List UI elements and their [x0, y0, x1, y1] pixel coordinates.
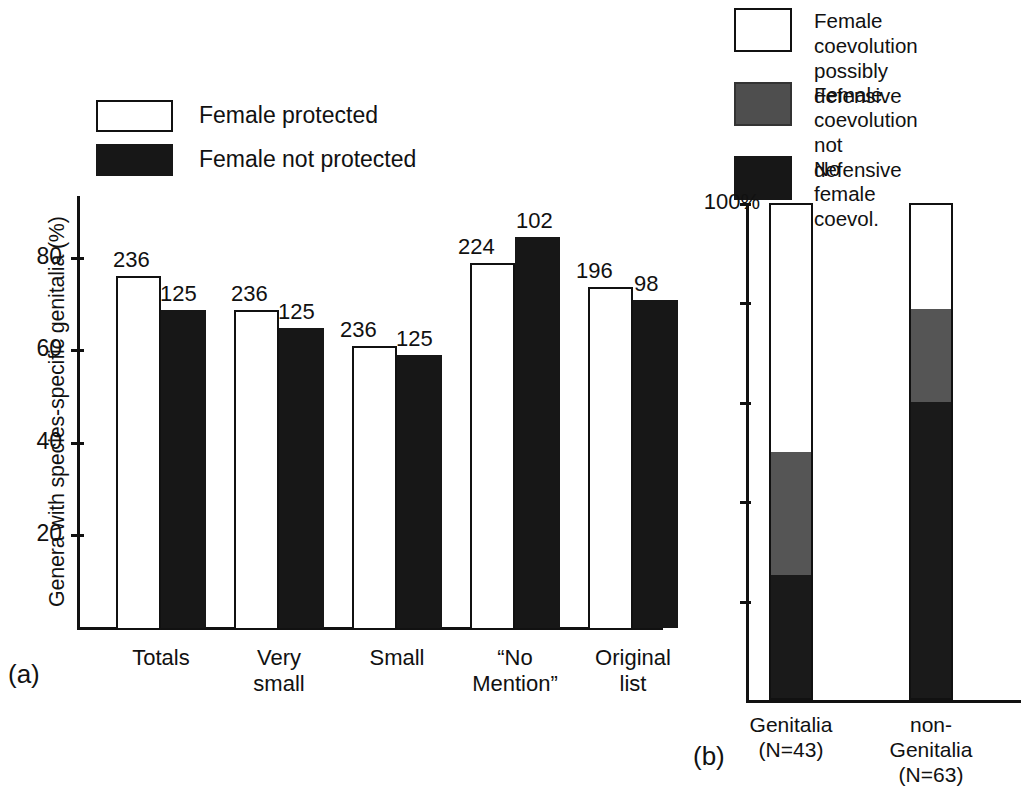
panel-b-tag: (b)	[693, 742, 725, 770]
panel-b-ytick-20	[740, 601, 751, 604]
panel-a-ytick-label-80: 80	[18, 244, 62, 269]
xcat-line2: Mention”	[455, 671, 575, 697]
bar-not-protected-totals	[161, 310, 206, 628]
panel-b-axis-top-label: 100%	[698, 190, 760, 214]
panel-a: Genera with species-specific genitalia (…	[0, 0, 690, 784]
xcat-line2: (N=43)	[731, 737, 851, 762]
legend-label: No female coevol.	[814, 156, 879, 231]
panel-a-ytick-80	[71, 257, 84, 260]
xcat-original-list: Original list	[573, 645, 693, 697]
xcat-line2: small	[219, 671, 339, 697]
panel-b-ytick-80	[740, 302, 751, 305]
bar-not-protected-very-small	[279, 328, 324, 628]
segment-possibly-defensive	[771, 205, 811, 452]
bar-value-protected-small: 236	[340, 318, 377, 342]
legend-swatch-white-icon	[96, 100, 173, 132]
xcat-line1: “No	[455, 645, 575, 671]
legend-swatch-black-icon	[96, 144, 173, 176]
panel-b-ytick-60	[740, 402, 751, 405]
bar-value-not-protected-totals: 125	[160, 282, 197, 306]
legend-label: Female protected	[199, 102, 378, 129]
bar-value-protected-no-mention: 224	[458, 235, 495, 259]
bar-protected-very-small	[234, 310, 279, 628]
segment-no-female-coevol	[771, 575, 811, 698]
panel-a-ytick-20	[71, 534, 84, 537]
panel-b: Female coevolution possibly defensive Fe…	[690, 0, 1021, 784]
bar-protected-small	[352, 346, 397, 628]
legend-swatch-white-icon	[734, 8, 792, 52]
panel-a-y-axis-line	[77, 196, 80, 630]
panel-b-y-axis-line	[746, 203, 749, 703]
legend-swatch-gray-icon	[734, 82, 792, 126]
xcat-line1: Small	[337, 645, 457, 671]
bar-value-protected-original-list: 196	[576, 259, 613, 283]
xcat-line2: list	[573, 671, 693, 697]
xcat-line1: non-	[871, 712, 991, 737]
panel-a-ytick-label-60: 60	[18, 336, 62, 361]
panel-a-ytick-label-40: 40	[18, 429, 62, 454]
panel-b-ytick-40	[740, 501, 751, 504]
segment-no-female-coevol	[911, 402, 951, 698]
segment-not-defensive	[911, 309, 951, 403]
panel-a-ytick-60	[71, 349, 84, 352]
bar-value-protected-very-small: 236	[231, 282, 268, 306]
panel-b-ytick-100	[740, 203, 751, 206]
stacked-bar-non-genitalia	[909, 203, 953, 700]
bar-protected-totals	[116, 276, 161, 628]
xcat-totals: Totals	[101, 645, 221, 671]
bar-not-protected-small	[397, 355, 442, 628]
xcat-non-genitalia: non- Genitalia (N=63)	[871, 712, 991, 788]
xcat-small: Small	[337, 645, 457, 671]
panel-a-ytick-40	[71, 442, 84, 445]
bar-value-not-protected-no-mention: 102	[516, 209, 553, 233]
legend-label: Female not protected	[199, 146, 416, 173]
xcat-genitalia: Genitalia (N=43)	[731, 712, 851, 762]
xcat-line1: Genitalia	[731, 712, 851, 737]
bar-not-protected-original-list	[633, 300, 678, 628]
bar-value-not-protected-original-list: 98	[634, 272, 658, 296]
xcat-line1: Very	[219, 645, 339, 671]
xcat-very-small: Very small	[219, 645, 339, 697]
xcat-no-mention: “No Mention”	[455, 645, 575, 697]
bar-value-not-protected-very-small: 125	[278, 300, 315, 324]
segment-not-defensive	[771, 452, 811, 575]
bar-value-protected-totals: 236	[113, 248, 150, 272]
xcat-line2: Genitalia	[871, 737, 991, 762]
xcat-line1: Original	[573, 645, 693, 671]
stacked-bar-genitalia	[769, 203, 813, 700]
segment-possibly-defensive	[911, 205, 951, 309]
panel-b-x-axis-line	[746, 700, 1021, 703]
bar-value-not-protected-small: 125	[396, 327, 433, 351]
bar-not-protected-no-mention	[515, 237, 560, 628]
panel-a-tag: (a)	[8, 660, 40, 688]
panel-a-ytick-label-20: 20	[18, 521, 62, 546]
bar-protected-no-mention	[470, 263, 515, 628]
xcat-line3: (N=63)	[871, 762, 991, 787]
xcat-line1: Totals	[101, 645, 221, 671]
bar-protected-original-list	[588, 287, 633, 628]
